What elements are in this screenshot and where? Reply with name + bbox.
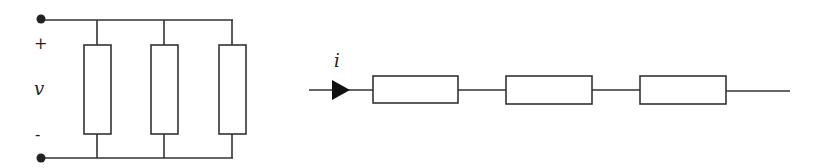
- plus-label: +: [34, 34, 47, 53]
- parallel-resistor-3: [219, 45, 246, 134]
- parallel-resistor-2: [151, 45, 178, 134]
- series-resistor-3: [640, 76, 726, 104]
- voltage-label: v: [34, 78, 44, 99]
- circuit-diagram: + v - i: [0, 0, 827, 168]
- series-resistor-2: [506, 76, 592, 104]
- series-resistor-1: [373, 76, 458, 103]
- minus-label: -: [35, 125, 40, 144]
- current-label: i: [334, 50, 340, 71]
- parallel-resistor-1: [84, 45, 111, 134]
- top-terminal-dot: [37, 15, 46, 24]
- bottom-terminal-dot: [37, 154, 46, 163]
- series-circuit: [309, 76, 790, 104]
- parallel-circuit: [41, 20, 246, 158]
- current-arrow-icon: [332, 80, 350, 100]
